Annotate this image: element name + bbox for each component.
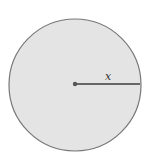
- radius-label: x: [105, 70, 112, 83]
- circle-diagram: x: [0, 0, 168, 159]
- center-point: [73, 82, 77, 86]
